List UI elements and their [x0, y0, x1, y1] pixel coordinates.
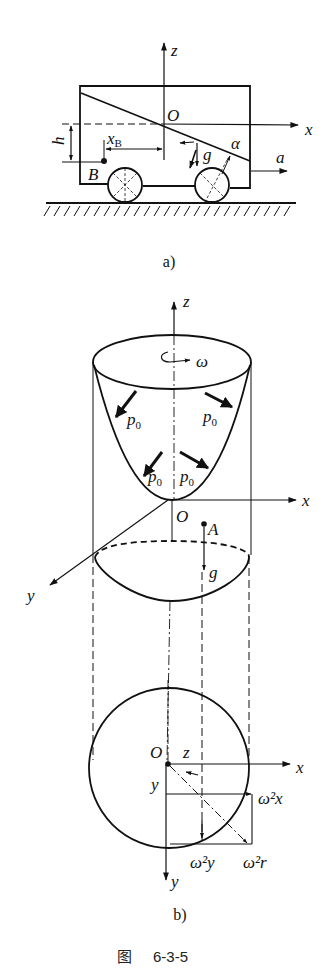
label-g: g	[203, 145, 212, 164]
wheel-right	[195, 160, 229, 202]
label-z-bottom: z	[182, 743, 190, 762]
label-w2x: ω²x	[258, 789, 283, 808]
label-origin-mid: O	[176, 507, 188, 526]
figure-number-prefix: 图	[117, 948, 132, 965]
point-a	[201, 521, 207, 527]
label-z-top: z	[182, 292, 190, 311]
plan-origin-point	[165, 761, 171, 767]
projection-axis-center	[167, 601, 170, 760]
label-p0-lower-left: p0	[147, 467, 163, 488]
label-origin-bottom: O	[150, 743, 162, 762]
ground-hatching	[44, 206, 290, 216]
z-direction-indicator-arrow	[186, 772, 198, 775]
label-a-point: A	[207, 520, 219, 539]
inertial-acceleration-arrow	[180, 142, 194, 143]
panel-b-labels: z ω p0 p0 p0 p0 x O A g y O z x y ω²x ω²…	[25, 292, 310, 891]
label-origin-o: O	[167, 106, 179, 125]
paraboloid-free-surface	[94, 365, 250, 500]
label-p0-upper-right: p0	[202, 407, 218, 428]
label-y-side: y	[149, 775, 159, 794]
label-x: x	[304, 120, 313, 139]
pressure-arrow-upper-right	[205, 393, 232, 407]
wheel-left	[108, 168, 142, 202]
label-p0-upper-left: p0	[126, 410, 142, 431]
label-z: z	[170, 41, 178, 60]
panel-a-cart-diagram	[44, 43, 298, 216]
pressure-arrow-lower-right	[180, 452, 208, 468]
label-y-mid: y	[25, 586, 35, 605]
radial-acceleration-arrow	[170, 766, 247, 843]
label-g-b: g	[209, 563, 218, 582]
label-h: h	[49, 137, 68, 146]
resultant-acceleration-arrow	[190, 150, 196, 168]
rotation-omega-arrow	[161, 352, 190, 362]
inclined-free-surface	[81, 93, 250, 161]
y-axis-mid-arrow	[50, 500, 168, 585]
label-w2r: ω²r	[243, 853, 267, 872]
label-x-mid: x	[301, 491, 310, 510]
surface-normal-arrow	[222, 156, 230, 174]
label-omega: ω	[196, 352, 208, 371]
caption-b: b)	[173, 906, 186, 924]
plan-view-circle	[89, 688, 249, 848]
container-bottom-visible-edge	[95, 556, 249, 601]
label-xb: xB	[106, 129, 122, 149]
label-p0-lower-right: p0	[179, 467, 195, 488]
label-a: a	[276, 148, 285, 167]
label-y-bottom: y	[169, 872, 179, 891]
figure-number: 6-3-5	[153, 948, 188, 965]
label-b: B	[88, 165, 99, 184]
label-alpha: α	[231, 134, 241, 153]
label-w2y: ω²y	[190, 853, 215, 872]
figure-canvas: z x O h xB B g α a a)	[0, 0, 335, 971]
point-b	[101, 158, 107, 164]
x-axis-arrow	[162, 124, 298, 125]
caption-a: a)	[163, 253, 175, 271]
label-x-bottom: x	[295, 758, 304, 777]
container-bottom-hidden-edge	[95, 541, 249, 557]
panel-a-labels: z x O h xB B g α a	[49, 41, 313, 184]
